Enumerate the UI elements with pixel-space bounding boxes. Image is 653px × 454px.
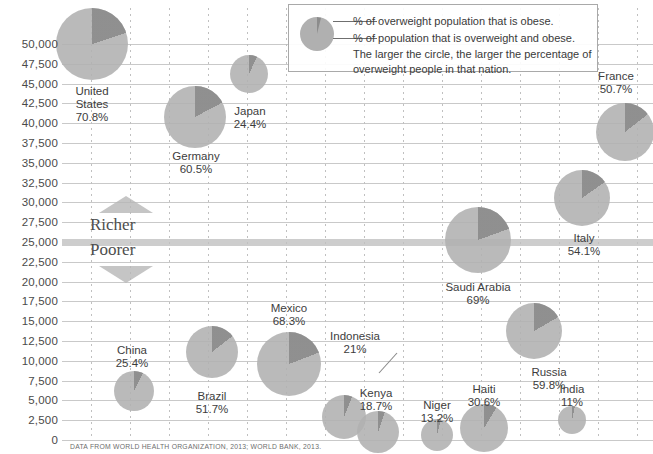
infographic-canvas: UnitedStates70.8%Germany60.5%Japan24.4%F…	[0, 0, 653, 454]
legend-text-size-2: overweight people in that nation.	[353, 62, 511, 76]
legend-text-obese: % of overweight population that is obese…	[353, 14, 554, 28]
y-axis-tick-5000: 5,000	[2, 394, 58, 406]
gridline-27500	[62, 222, 653, 223]
country-name: Niger	[421, 399, 454, 412]
country-name: States	[75, 98, 108, 111]
bubble-obese-wedge	[554, 170, 610, 226]
gridline-10000	[62, 361, 653, 362]
legend-pie-slice	[300, 17, 334, 51]
y-axis-tick-20000: 20,000	[2, 276, 58, 288]
label-china: China25.4%	[116, 344, 149, 370]
bubble-obese-wedge	[445, 207, 511, 273]
country-name: Russia	[531, 366, 566, 379]
label-india: India11%	[560, 383, 585, 409]
y-axis-tick-30000: 30,000	[2, 196, 58, 208]
bubble-united-states[interactable]	[56, 8, 128, 80]
poorer-arrow-down-icon	[99, 266, 153, 283]
country-name: India	[560, 383, 585, 396]
country-percentage: 21%	[330, 343, 380, 356]
country-name: Saudi Arabia	[445, 281, 510, 294]
country-name: Mexico	[271, 302, 307, 315]
bubble-obese-wedge	[460, 404, 508, 452]
country-name: China	[116, 344, 149, 357]
bubble-italy[interactable]	[554, 170, 610, 226]
label-brazil: Brazil51.7%	[196, 390, 229, 416]
bubble-china[interactable]	[114, 371, 154, 411]
country-name: Germany	[172, 150, 219, 163]
label-saudi-arabia: Saudi Arabia69%	[445, 281, 510, 307]
bubble-saudi-arabia[interactable]	[445, 207, 511, 273]
label-indonesia: Indonesia21%	[330, 330, 380, 356]
source-caption: DATA FROM WORLD HEALTH ORGANIZATION, 201…	[70, 443, 321, 450]
bubble-obese-wedge	[257, 332, 321, 396]
indonesia-leader-line	[378, 352, 398, 374]
y-axis-tick-40000: 40,000	[2, 117, 58, 129]
bubble-germany[interactable]	[164, 86, 226, 148]
country-percentage: 70.8%	[75, 111, 108, 124]
y-axis-tick-7500: 7,500	[2, 375, 58, 387]
country-name: Japan	[234, 105, 267, 118]
y-axis: 50,00047,50045,00042,50040,00037,50035,0…	[0, 0, 58, 454]
y-axis-tick-15000: 15,000	[2, 315, 58, 327]
bubble-mexico[interactable]	[257, 332, 321, 396]
country-name: Haiti	[468, 383, 501, 396]
y-axis-tick-17500: 17,500	[2, 295, 58, 307]
legend-box: % of overweight population that is obese…	[288, 4, 598, 72]
y-axis-tick-47500: 47,500	[2, 58, 58, 70]
bubble-kenya[interactable]	[357, 411, 399, 453]
y-axis-tick-45000: 45,000	[2, 78, 58, 90]
bubble-japan[interactable]	[230, 55, 268, 93]
gridline-25000	[62, 239, 653, 246]
bubble-brazil[interactable]	[186, 326, 238, 378]
bubble-obese-wedge	[114, 371, 154, 411]
label-united-states: UnitedStates70.8%	[75, 85, 108, 124]
bubble-russia[interactable]	[506, 303, 562, 359]
country-percentage: 11%	[560, 396, 585, 409]
gridline-17500	[62, 301, 653, 302]
bubble-obese-wedge	[506, 303, 562, 359]
y-axis-tick-10000: 10,000	[2, 355, 58, 367]
country-name: France	[598, 70, 634, 83]
bubble-obese-wedge	[186, 326, 238, 378]
poorer-label: Poorer	[90, 240, 135, 260]
y-axis-tick-37500: 37,500	[2, 137, 58, 149]
bubble-india[interactable]	[558, 406, 586, 434]
bubble-obese-wedge	[357, 411, 399, 453]
y-axis-tick-25000: 25,000	[2, 236, 58, 248]
country-name: Italy	[568, 232, 601, 245]
country-name: Brazil	[196, 390, 229, 403]
label-mexico: Mexico68.3%	[271, 302, 307, 328]
country-percentage: 18.7%	[360, 400, 393, 413]
country-percentage: 25.4%	[116, 357, 149, 370]
country-percentage: 30.6%	[468, 396, 501, 409]
legend-text-overweight: % of population that is overweight and o…	[353, 31, 575, 45]
country-percentage: 51.7%	[196, 403, 229, 416]
label-france: France50.7%	[598, 70, 634, 96]
country-percentage: 69%	[445, 294, 510, 307]
bubble-obese-wedge	[230, 55, 268, 93]
country-percentage: 50.7%	[598, 83, 634, 96]
bubble-france[interactable]	[596, 103, 653, 161]
country-percentage: 24.4%	[234, 118, 267, 131]
y-axis-tick-35000: 35,000	[2, 157, 58, 169]
country-name: United	[75, 85, 108, 98]
country-name: Kenya	[360, 387, 393, 400]
vertical-gridline	[169, 8, 170, 440]
legend-text-size-1: The larger the circle, the larger the pe…	[353, 47, 591, 61]
label-kenya: Kenya18.7%	[360, 387, 393, 413]
y-axis-tick-0: 0	[2, 434, 58, 446]
y-axis-tick-42500: 42,500	[2, 97, 58, 109]
gridline-42500	[62, 103, 653, 104]
vertical-gridline	[637, 8, 638, 440]
label-germany: Germany60.5%	[172, 150, 219, 176]
bubble-haiti[interactable]	[460, 404, 508, 452]
y-axis-tick-27500: 27,500	[2, 216, 58, 228]
vertical-gridline	[325, 8, 326, 440]
vertical-gridline	[520, 8, 521, 440]
legend-pie-icon	[300, 17, 334, 51]
label-italy: Italy54.1%	[568, 232, 601, 258]
gridline-37500	[62, 143, 653, 144]
country-percentage: 13.2%	[421, 412, 454, 425]
y-axis-tick-12500: 12,500	[2, 335, 58, 347]
gridline-45000	[62, 84, 653, 85]
